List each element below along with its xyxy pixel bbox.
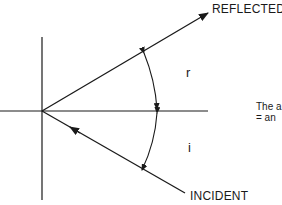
reflected-ray xyxy=(42,13,208,111)
angle-r-label: r xyxy=(186,65,190,80)
caption-line-1: The a xyxy=(256,101,282,112)
reflected-label: REFLECTED xyxy=(212,2,282,16)
caption-line-2: = an xyxy=(256,112,276,123)
incident-label: INCIDENT xyxy=(190,189,248,203)
angle-i-arc xyxy=(142,113,157,170)
angle-r-arc xyxy=(144,53,157,109)
angle-i-label: i xyxy=(188,140,191,155)
incident-ray xyxy=(42,111,185,193)
reflection-diagram xyxy=(0,0,282,205)
